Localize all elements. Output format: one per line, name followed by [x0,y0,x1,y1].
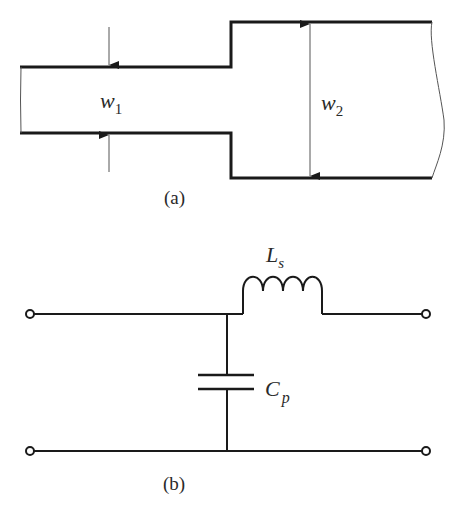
caption-a: (a) [164,187,185,209]
figure-canvas: w1 w2 (a) Ls Cp (b) [0,0,458,513]
left-break-line [21,67,22,133]
terminal-top-right [422,310,430,318]
capacitor-label: Cp [265,376,290,407]
w1-label: w1 [100,88,122,117]
part-a-width-step: w1 w2 (a) [20,22,444,209]
terminal-bottom-left [26,447,34,455]
terminal-bottom-right [422,447,430,455]
part-b-equivalent-circuit: Ls Cp (b) [26,242,430,495]
caption-b: (b) [163,473,185,495]
narrow-strip-top-edge [20,22,432,67]
w2-label: w2 [321,90,343,119]
inductor-label: Ls [265,242,284,271]
narrow-strip-bottom-edge [20,133,432,178]
right-break-line [431,22,444,178]
terminal-top-left [26,310,34,318]
inductor-symbol [243,277,322,314]
